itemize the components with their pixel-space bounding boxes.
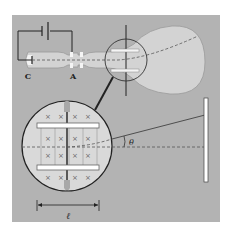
anode-label: A: [69, 71, 77, 81]
field-marker: ×: [85, 113, 91, 121]
lead-connector-bottom: [64, 180, 70, 191]
length-label: ℓ: [66, 211, 70, 221]
field-marker: ×: [45, 152, 51, 160]
field-marker: ×: [58, 135, 64, 143]
upper-plate: [37, 123, 99, 128]
fluorescent-screen: [204, 98, 208, 182]
field-marker: ×: [85, 152, 91, 160]
magnified-view: × × × × × × × × × × × × × × × ×: [22, 101, 112, 192]
lower-plate-small: [111, 69, 139, 72]
field-marker: ×: [72, 113, 78, 121]
field-marker: ×: [85, 174, 91, 182]
field-marker: ×: [72, 152, 78, 160]
field-marker: ×: [72, 174, 78, 182]
angle-label: θ: [129, 138, 134, 147]
field-marker: ×: [45, 174, 51, 182]
lead-connector-top: [64, 101, 70, 113]
cathode-ray-tube-diagram: × × × × × × × × × × × × × × × × θ ℓ: [0, 0, 232, 226]
cathode-label: C: [25, 71, 31, 81]
field-marker: ×: [72, 135, 78, 143]
field-marker: ×: [58, 152, 64, 160]
field-marker: ×: [85, 135, 91, 143]
lower-plate: [37, 165, 99, 170]
upper-plate-small: [111, 49, 139, 52]
field-marker: ×: [45, 113, 51, 121]
field-marker: ×: [58, 113, 64, 121]
field-marker: ×: [58, 174, 64, 182]
field-marker: ×: [45, 135, 51, 143]
